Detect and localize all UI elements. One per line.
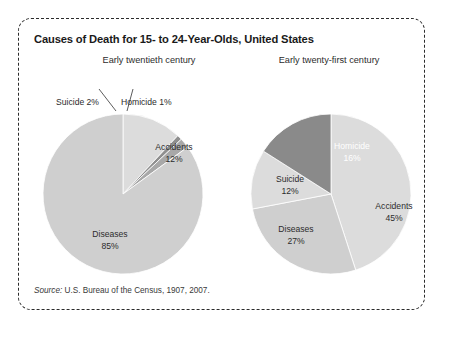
source-label: Source: xyxy=(34,286,62,295)
slice-label-suicide-right: Suicide 12% xyxy=(262,174,318,197)
slice-label-diseases-right: Diseases 27% xyxy=(266,224,326,247)
slice-name: Homicide xyxy=(334,141,370,151)
slice-name: Suicide xyxy=(276,174,304,184)
source-note: Source: U.S. Bureau of the Census, 1907,… xyxy=(34,286,210,295)
slice-name: Accidents xyxy=(375,201,412,211)
slice-pct: 12% xyxy=(262,186,318,198)
figure-frame: Causes of Death for 15- to 24-Year-Olds,… xyxy=(18,18,425,310)
slice-pct: 27% xyxy=(266,236,326,248)
pie-chart-early-twenty-first-century xyxy=(19,19,426,311)
source-text: U.S. Bureau of the Census, 1907, 2007. xyxy=(62,286,209,295)
slice-pct: 45% xyxy=(364,213,424,225)
slice-label-accidents-right: Accidents 45% xyxy=(364,201,424,224)
slice-name: Diseases xyxy=(278,224,313,234)
slice-label-homicide-right: Homicide 16% xyxy=(324,141,380,164)
slice-pct: 16% xyxy=(324,153,380,165)
